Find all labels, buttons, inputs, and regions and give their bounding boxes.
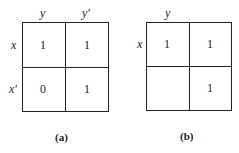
cell-xprime-yprime: 1 — [77, 82, 97, 96]
cell-x-yprime: 1 — [77, 38, 97, 52]
caption-b: (b) — [180, 129, 193, 143]
cell-xprime-yprime: 1 — [200, 81, 220, 95]
grid-divider-horizontal — [147, 66, 231, 67]
cell-x-y: 1 — [33, 38, 53, 52]
row-label-x: x — [11, 38, 16, 52]
col-label-y: y — [165, 6, 170, 20]
row-label-x-prime: x′ — [9, 82, 17, 96]
col-label-y-prime: y′ — [82, 6, 90, 20]
grid-divider-horizontal — [23, 67, 108, 68]
cell-x-y: 1 — [157, 37, 177, 51]
kmap-grid — [22, 22, 109, 112]
cell-x-yprime: 1 — [200, 37, 220, 51]
caption-a: (a) — [55, 130, 68, 144]
row-label-x: x — [137, 37, 142, 51]
cell-xprime-y: 0 — [33, 82, 53, 96]
kmap-grid — [146, 22, 232, 111]
col-label-y: y — [40, 6, 45, 20]
